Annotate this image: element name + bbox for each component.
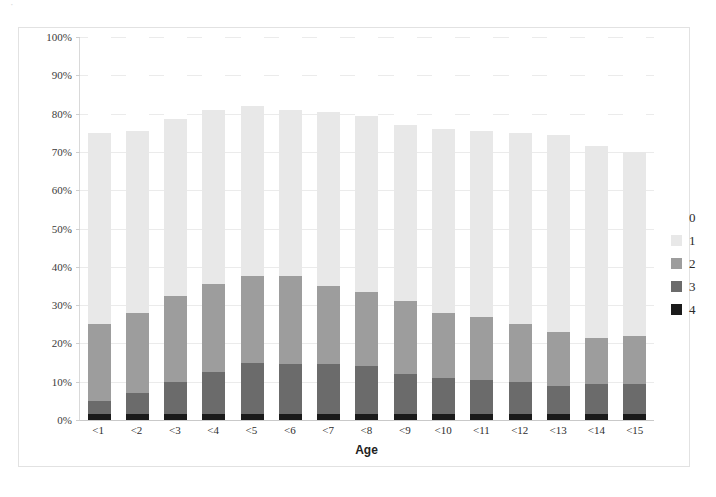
bar-segment-2[interactable] — [623, 336, 646, 384]
stacked-bar[interactable] — [623, 37, 646, 420]
bar-segment-3[interactable] — [241, 363, 264, 415]
stacked-bar[interactable] — [164, 37, 187, 420]
bar-segment-3[interactable] — [585, 384, 608, 415]
bar-segment-2[interactable] — [241, 276, 264, 362]
stacked-bar[interactable] — [547, 37, 570, 420]
bar-segment-1[interactable] — [355, 116, 378, 292]
bar-segment-4[interactable] — [241, 414, 264, 420]
bar-column[interactable] — [233, 37, 271, 420]
legend-item[interactable]: 1 — [671, 229, 696, 252]
bar-segment-2[interactable] — [585, 338, 608, 384]
bar-segment-2[interactable] — [317, 286, 340, 365]
bar-segment-3[interactable] — [509, 382, 532, 415]
bar-segment-3[interactable] — [547, 386, 570, 415]
bar-segment-1[interactable] — [432, 129, 455, 313]
bar-column[interactable] — [310, 37, 348, 420]
bar-segment-3[interactable] — [202, 372, 225, 414]
bar-segment-0[interactable] — [623, 37, 646, 152]
legend-item[interactable]: 4 — [671, 298, 696, 321]
bar-segment-2[interactable] — [470, 317, 493, 380]
bar-segment-4[interactable] — [317, 414, 340, 420]
bar-segment-0[interactable] — [164, 37, 187, 119]
bar-segment-1[interactable] — [470, 131, 493, 317]
bar-segment-0[interactable] — [470, 37, 493, 131]
bar-segment-2[interactable] — [88, 324, 111, 401]
bar-segment-0[interactable] — [432, 37, 455, 129]
bar-segment-1[interactable] — [509, 133, 532, 325]
legend-item[interactable]: 0 — [671, 206, 696, 229]
bar-segment-1[interactable] — [202, 110, 225, 284]
bar-segment-2[interactable] — [279, 276, 302, 364]
bar-segment-4[interactable] — [394, 414, 417, 420]
bar-column[interactable] — [424, 37, 462, 420]
bar-segment-2[interactable] — [547, 332, 570, 386]
bar-segment-4[interactable] — [623, 414, 646, 420]
stacked-bar[interactable] — [509, 37, 532, 420]
stacked-bar[interactable] — [241, 37, 264, 420]
bar-column[interactable] — [539, 37, 577, 420]
stacked-bar[interactable] — [470, 37, 493, 420]
bar-column[interactable] — [271, 37, 309, 420]
bar-segment-3[interactable] — [279, 364, 302, 414]
bar-segment-1[interactable] — [623, 152, 646, 336]
bar-segment-1[interactable] — [164, 119, 187, 295]
bar-segment-0[interactable] — [394, 37, 417, 125]
bar-segment-4[interactable] — [279, 414, 302, 420]
bar-segment-3[interactable] — [394, 374, 417, 414]
stacked-bar[interactable] — [317, 37, 340, 420]
bar-segment-1[interactable] — [279, 110, 302, 277]
bar-segment-4[interactable] — [88, 414, 111, 420]
bar-segment-2[interactable] — [509, 324, 532, 381]
bar-column[interactable] — [616, 37, 654, 420]
bar-segment-3[interactable] — [432, 378, 455, 414]
bar-segment-2[interactable] — [164, 296, 187, 382]
bar-segment-1[interactable] — [547, 135, 570, 332]
bar-segment-4[interactable] — [547, 414, 570, 420]
stacked-bar[interactable] — [88, 37, 111, 420]
legend-item[interactable]: 2 — [671, 252, 696, 275]
bar-segment-2[interactable] — [432, 313, 455, 378]
legend-item[interactable]: 3 — [671, 275, 696, 298]
bar-segment-3[interactable] — [317, 364, 340, 414]
bar-segment-0[interactable] — [88, 37, 111, 133]
stacked-bar[interactable] — [126, 37, 149, 420]
bar-segment-2[interactable] — [355, 292, 378, 367]
bar-segment-4[interactable] — [202, 414, 225, 420]
bar-segment-2[interactable] — [126, 313, 149, 393]
bar-segment-1[interactable] — [317, 112, 340, 286]
bar-segment-4[interactable] — [470, 414, 493, 420]
bar-segment-0[interactable] — [241, 37, 264, 106]
bar-column[interactable] — [386, 37, 424, 420]
bar-segment-0[interactable] — [509, 37, 532, 133]
bar-segment-0[interactable] — [279, 37, 302, 110]
stacked-bar[interactable] — [585, 37, 608, 420]
bar-segment-1[interactable] — [241, 106, 264, 276]
bar-segment-1[interactable] — [394, 125, 417, 301]
bar-segment-0[interactable] — [126, 37, 149, 131]
bar-segment-0[interactable] — [547, 37, 570, 135]
bar-segment-4[interactable] — [509, 414, 532, 420]
bar-segment-2[interactable] — [202, 284, 225, 372]
bar-column[interactable] — [501, 37, 539, 420]
bar-column[interactable] — [348, 37, 386, 420]
bar-column[interactable] — [577, 37, 615, 420]
bar-segment-3[interactable] — [623, 384, 646, 415]
bar-segment-1[interactable] — [88, 133, 111, 325]
bar-segment-2[interactable] — [394, 301, 417, 374]
bar-segment-3[interactable] — [88, 401, 111, 414]
bar-segment-4[interactable] — [585, 414, 608, 420]
stacked-bar[interactable] — [394, 37, 417, 420]
bar-segment-4[interactable] — [164, 414, 187, 420]
stacked-bar[interactable] — [202, 37, 225, 420]
stacked-bar[interactable] — [355, 37, 378, 420]
bar-segment-0[interactable] — [355, 37, 378, 116]
bar-segment-0[interactable] — [317, 37, 340, 112]
bar-column[interactable] — [195, 37, 233, 420]
bar-segment-3[interactable] — [164, 382, 187, 415]
bar-segment-3[interactable] — [470, 380, 493, 414]
bar-column[interactable] — [157, 37, 195, 420]
bar-segment-0[interactable] — [585, 37, 608, 146]
bar-segment-3[interactable] — [355, 366, 378, 414]
bar-segment-4[interactable] — [432, 414, 455, 420]
bar-segment-1[interactable] — [126, 131, 149, 313]
